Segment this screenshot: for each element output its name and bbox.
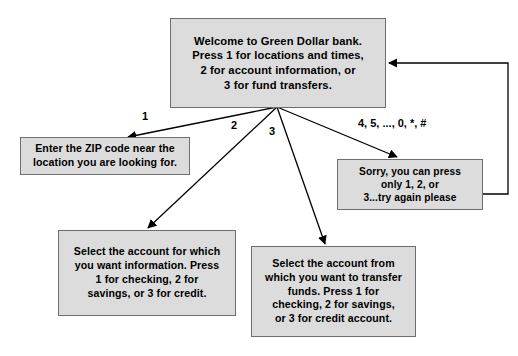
node-fund-transfer: Select the account from which you want t… (251, 246, 416, 337)
node-invalid-entry: Sorry, you can press only 1, 2, or 3...t… (337, 159, 483, 210)
node-zip-text: Enter the ZIP code near the location you… (21, 142, 189, 170)
edge-welcome-to-zip (128, 107, 277, 137)
edge-label-other-keys: 4, 5, ..., 0, *, # (358, 117, 426, 129)
edge-label-one: 1 (142, 110, 148, 122)
node-account-info-text: Select the account for which you want in… (59, 245, 235, 300)
node-welcome-text: Welcome to Green Dollar bank. Press 1 fo… (171, 34, 385, 92)
flowchart-canvas: Welcome to Green Dollar bank. Press 1 fo… (0, 0, 518, 356)
edge-welcome-to-transfer (277, 107, 325, 244)
node-transfer-text: Select the account from which you want t… (252, 257, 415, 326)
edge-welcome-to-sorry (277, 107, 397, 157)
edge-label-two: 2 (231, 119, 237, 131)
node-sorry-text: Sorry, you can press only 1, 2, or 3...t… (338, 165, 482, 205)
node-zip-prompt: Enter the ZIP code near the location you… (20, 137, 190, 175)
node-welcome-greeting: Welcome to Green Dollar bank. Press 1 fo… (170, 18, 386, 108)
edge-label-three: 3 (269, 125, 275, 137)
node-account-information: Select the account for which you want in… (58, 230, 236, 316)
